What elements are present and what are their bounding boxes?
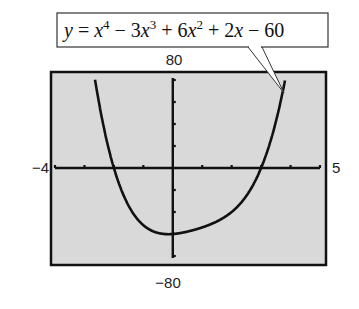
graph-canvas: y = x4 − 3x3 + 6x2 + 2x − 60 [0,0,359,309]
equation-label: y = x4 − 3x3 + 6x2 + 2x − 60 [62,17,284,42]
